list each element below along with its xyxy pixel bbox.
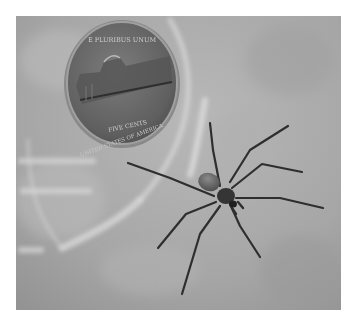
spider-head (229, 201, 237, 208)
coin-top-text: E PLURIBUS UNUM (88, 36, 157, 44)
photo-canvas: E PLURIBUS UNUM FIVE CENTS UNITED STATES… (16, 16, 341, 310)
photo: E PLURIBUS UNUM FIVE CENTS UNITED STATES… (16, 16, 341, 310)
